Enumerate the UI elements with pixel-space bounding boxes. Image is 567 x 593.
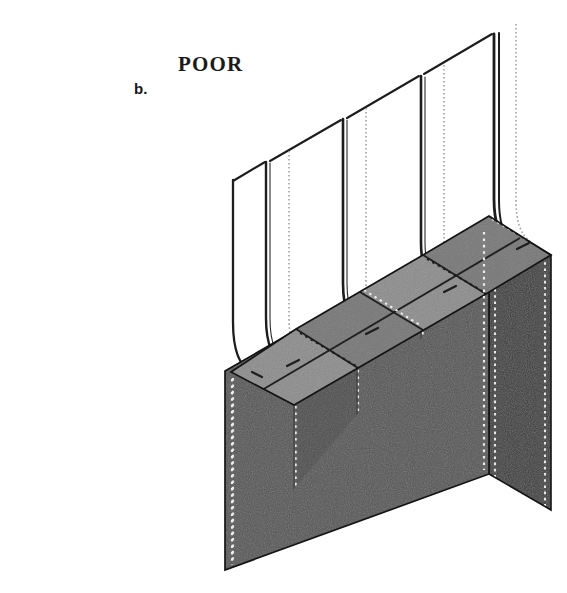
bulk-container-diagram [0,0,567,593]
figure-part-label: b. [134,80,147,97]
figure-container: POOR b. [0,0,567,593]
quality-label: POOR [178,52,243,77]
